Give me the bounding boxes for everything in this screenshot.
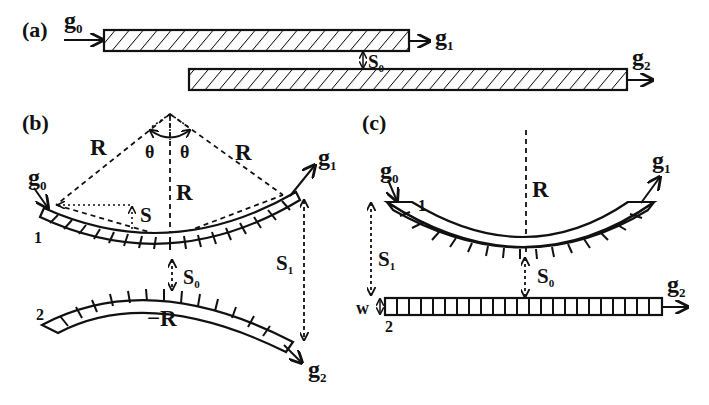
s0-label: S0 [183,266,200,290]
radius-left-label: R [90,135,107,160]
layer-1-label: 1 [418,197,426,214]
panel-b: (b) R θ θ R R S [22,110,337,385]
straight-grating-2 [385,298,662,315]
radius-center-label: R [176,180,193,205]
panel-a-label: (a) [22,17,48,42]
width-label: w [356,298,369,318]
panel-b-label: (b) [22,110,49,135]
panel-c-label: (c) [362,110,386,135]
g0-label: g0 [64,7,83,36]
s1-label: S1 [378,247,395,272]
layer-2-label: 2 [36,306,44,323]
g2-label: g2 [667,271,686,300]
output-arrow-1 [641,177,660,203]
panel-a: (a) g0 g1 S0 g2 [22,7,653,90]
neg-radius-label: −R [147,306,177,331]
radius-label: R [532,177,549,202]
grating-2 [189,69,627,90]
figure: (a) g0 g1 S0 g2 (b) R θ θ [0,0,709,405]
grating-1 [104,30,409,51]
s0-label: S0 [368,51,385,74]
panel-c: (c) R 1 g0 g1 S1 S0 [356,110,688,335]
g2-label: g2 [632,44,651,73]
sag-label: S [140,203,152,227]
g2-label: g2 [308,356,327,385]
g0-label: g0 [28,164,47,193]
theta-left-label: θ [145,142,154,162]
output-arrow-1 [290,165,315,196]
g1-label: g1 [435,24,454,53]
s0-label: S0 [537,264,555,289]
radius-right-label: R [235,140,252,165]
layer-2-label: 2 [385,318,393,335]
g1-label: g1 [652,147,671,176]
theta-right-label: θ [180,142,189,162]
s1-label: S1 [276,251,293,276]
output-arrow-2 [284,345,302,363]
layer-1-label: 1 [34,229,42,246]
g1-label: g1 [318,144,337,173]
